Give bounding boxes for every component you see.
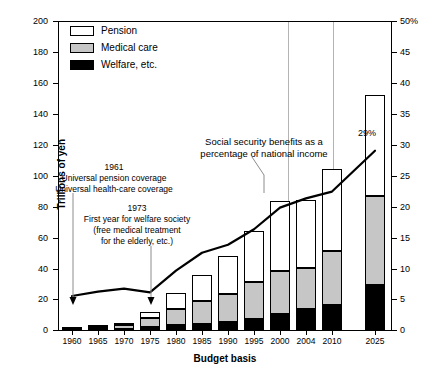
bar-1980[interactable] bbox=[166, 293, 186, 330]
y-label-right-20: 20 bbox=[400, 203, 434, 212]
y-tick-right-0 bbox=[392, 330, 397, 331]
x-tick-1975 bbox=[150, 331, 151, 335]
bar-segment-welfare bbox=[244, 319, 264, 330]
y-tick-left-160 bbox=[53, 83, 58, 84]
bar-1990[interactable] bbox=[218, 256, 238, 330]
bar-1970[interactable] bbox=[114, 323, 134, 330]
x-axis bbox=[58, 330, 392, 331]
bar-segment-medical bbox=[244, 282, 264, 319]
y-tick-right-45 bbox=[392, 52, 397, 53]
x-axis-title: Budget basis bbox=[58, 353, 392, 364]
annotation-1973-line2: (free medical treatment bbox=[93, 225, 180, 236]
annotation-line-text-1: Social security benefits as a bbox=[205, 136, 323, 148]
annotation-1961-line1: Universal pension coverage bbox=[62, 173, 167, 184]
y-label-left-0: 0 bbox=[18, 326, 48, 335]
legend-label-medical-care: Medical care bbox=[101, 43, 158, 53]
x-tick-2025 bbox=[375, 331, 376, 335]
x-tick-1985 bbox=[202, 331, 203, 335]
x-tick-2004 bbox=[306, 331, 307, 335]
bar-segment-pension bbox=[62, 327, 82, 329]
x-tick-1965 bbox=[98, 331, 99, 335]
x-label-2025: 2025 bbox=[356, 337, 394, 346]
y-label-right-35: 35 bbox=[400, 110, 434, 119]
y-label-left-120: 120 bbox=[18, 141, 48, 150]
bar-1960[interactable] bbox=[62, 328, 82, 330]
y-label-right-25: 25 bbox=[400, 172, 434, 181]
bar-segment-welfare bbox=[192, 324, 212, 330]
y-label-right-10: 10 bbox=[400, 265, 434, 274]
bar-segment-medical bbox=[192, 301, 212, 323]
y-label-left-100: 100 bbox=[18, 172, 48, 181]
legend-label-welfare: Welfare, etc. bbox=[101, 60, 157, 70]
bar-segment-medical bbox=[88, 327, 108, 329]
y-label-left-180: 180 bbox=[18, 48, 48, 57]
bar-segment-pension bbox=[270, 201, 290, 271]
bar-segment-medical bbox=[166, 309, 186, 325]
y-label-right-45: 45 bbox=[400, 48, 434, 57]
y-label-left-20: 20 bbox=[18, 295, 48, 304]
bar-2010[interactable] bbox=[322, 169, 342, 330]
annotation-1973-year: 1973 bbox=[128, 203, 147, 214]
annotation-line-text-2: percentage of national income bbox=[200, 148, 327, 160]
y-tick-left-40 bbox=[53, 269, 58, 270]
y-label-right-15: 15 bbox=[400, 234, 434, 243]
bar-segment-welfare bbox=[365, 285, 385, 330]
bar-segment-welfare bbox=[166, 325, 186, 330]
welfare-swatch-icon bbox=[70, 60, 94, 70]
bar-segment-welfare bbox=[322, 305, 342, 330]
legend-item-medical-care[interactable]: Medical care bbox=[70, 40, 158, 55]
y-label-right-30: 30 bbox=[400, 141, 434, 150]
legend-label-pension: Pension bbox=[101, 26, 137, 36]
y-tick-left-180 bbox=[53, 52, 58, 53]
annotation-1961-line2: Universal health-care coverage bbox=[55, 184, 173, 195]
bar-segment-welfare bbox=[218, 322, 238, 330]
bar-segment-pension bbox=[296, 200, 316, 268]
y-tick-right-40 bbox=[392, 83, 397, 84]
y-tick-right-5 bbox=[392, 299, 397, 300]
medical-care-swatch-icon bbox=[70, 43, 94, 53]
bar-1995[interactable] bbox=[244, 231, 264, 330]
bar-segment-welfare bbox=[270, 314, 290, 330]
x-tick-1980 bbox=[176, 331, 177, 335]
bar-segment-welfare bbox=[296, 309, 316, 330]
top-spine bbox=[58, 21, 392, 22]
data-label-29-percent: 29% bbox=[358, 129, 376, 138]
y-tick-left-0 bbox=[53, 330, 58, 331]
y-tick-right-25 bbox=[392, 176, 397, 177]
bar-1975[interactable] bbox=[140, 312, 160, 330]
y-label-left-80: 80 bbox=[18, 203, 48, 212]
x-tick-1960 bbox=[72, 331, 73, 335]
bar-segment-pension bbox=[218, 256, 238, 294]
x-tick-2000 bbox=[280, 331, 281, 335]
bar-segment-pension bbox=[88, 325, 108, 327]
x-tick-1970 bbox=[124, 331, 125, 335]
bar-segment-medical bbox=[270, 271, 290, 314]
y-label-left-160: 160 bbox=[18, 79, 48, 88]
bar-segment-pension bbox=[365, 95, 385, 195]
x-tick-1990 bbox=[228, 331, 229, 335]
legend-item-pension[interactable]: Pension bbox=[70, 23, 158, 38]
bar-segment-medical bbox=[296, 268, 316, 309]
y-label-right-40: 40 bbox=[400, 79, 434, 88]
bar-segment-medical bbox=[114, 325, 134, 328]
bar-segment-pension bbox=[322, 169, 342, 251]
bar-1965[interactable] bbox=[88, 326, 108, 330]
annotation-1973-line1: First year for welfare society bbox=[84, 214, 190, 225]
bar-2004[interactable] bbox=[296, 200, 316, 330]
bar-segment-pension bbox=[192, 275, 212, 301]
bar-segment-pension bbox=[140, 312, 160, 318]
bar-segment-welfare bbox=[140, 327, 160, 330]
bar-2000[interactable] bbox=[270, 201, 290, 330]
y-label-left-40: 40 bbox=[18, 265, 48, 274]
y-label-left-60: 60 bbox=[18, 234, 48, 243]
bar-1985[interactable] bbox=[192, 275, 212, 330]
legend-item-welfare[interactable]: Welfare, etc. bbox=[70, 57, 158, 72]
y-tick-left-200 bbox=[53, 21, 58, 22]
annotation-1973-line3: for the elderly, etc.) bbox=[101, 236, 173, 247]
legend: Pension Medical care Welfare, etc. bbox=[70, 23, 158, 74]
y-tick-left-140 bbox=[53, 114, 58, 115]
bar-segment-pension bbox=[114, 323, 134, 325]
x-label-2010: 2010 bbox=[313, 337, 351, 346]
y-tick-left-60 bbox=[53, 238, 58, 239]
y-label-right-5: 5 bbox=[400, 295, 434, 304]
